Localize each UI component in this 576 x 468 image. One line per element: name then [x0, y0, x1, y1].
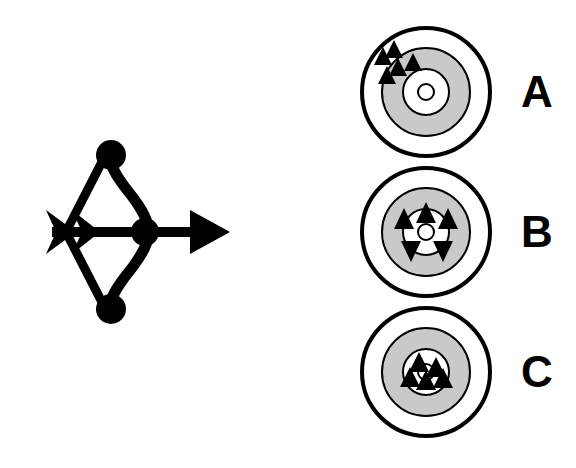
target-bullseye — [418, 84, 434, 100]
target-label-b: B — [502, 162, 572, 302]
target-b-graphic — [356, 162, 496, 302]
bow-and-arrow-icon — [14, 132, 230, 332]
target-row: A — [356, 22, 576, 162]
bow-and-arrow-illustration — [14, 132, 230, 332]
target-bullseye — [418, 224, 434, 240]
target-c-graphic — [356, 302, 496, 442]
target-a-graphic — [356, 22, 496, 162]
target-label-a: A — [502, 22, 572, 162]
target-list: A B — [356, 22, 576, 446]
target-row: B — [356, 162, 576, 302]
target-row: C — [356, 302, 576, 442]
target-label-c: C — [502, 302, 572, 442]
archery-accuracy-precision-figure: A B — [0, 0, 576, 468]
